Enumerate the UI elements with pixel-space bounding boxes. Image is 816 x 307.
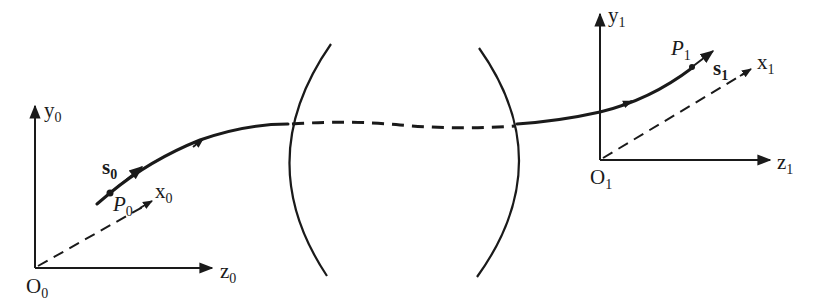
optical-system [289,44,519,277]
y0-label: y0 [44,98,62,125]
z0-label: z0 [220,259,236,286]
x0-arrowhead-icon [140,201,152,208]
p1-label: P1 [670,36,691,63]
origin-o0-label: O0 [26,274,48,301]
s0-label: s0 [102,155,117,182]
origin-o1-label: O1 [590,165,612,192]
s1-vector-arrow [692,51,713,67]
x0-label: x0 [155,179,173,206]
incident-ray: s0 P0 [97,124,288,219]
ray-inside-system-dashed [292,122,515,128]
s1-label: s1 [713,56,728,83]
x1-axis-dashed [603,73,745,158]
y1-label: y1 [608,3,626,30]
object-coordinate-frame: y0 z0 x0 O0 [26,98,236,301]
image-coordinate-frame: y1 z1 x1 O1 [590,3,793,192]
p0-label: P0 [112,192,133,219]
optics-diagram: y0 z0 x0 O0 s0 P0 P1 s1 y1 z1 x1 O1 [0,0,816,307]
left-lens-surface [289,44,331,276]
emergent-ray-path [517,68,692,124]
emergent-ray: P1 s1 [517,36,728,124]
x1-arrowhead-icon [740,69,751,76]
x1-label: x1 [757,50,775,77]
right-lens-surface [477,48,519,277]
z1-label: z1 [777,150,793,177]
